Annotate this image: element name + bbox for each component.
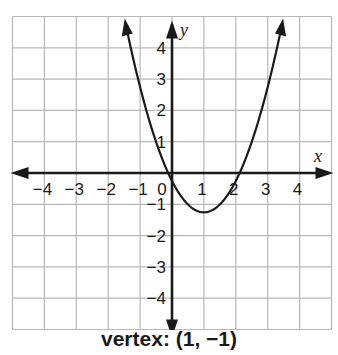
y-tick-label: −3	[147, 258, 166, 277]
y-axis-label: y	[178, 20, 188, 40]
axes	[11, 21, 334, 331]
x-tick-label: −4	[33, 180, 52, 199]
curve-left-arrow-icon	[122, 18, 133, 36]
vertex-caption: vertex: (1, −1)	[0, 327, 338, 351]
y-tick-label: 3	[157, 70, 166, 89]
x-axis-label: x	[313, 146, 322, 166]
y-tick-label: −1	[147, 195, 166, 214]
x-tick-label: 1	[197, 180, 206, 199]
coordinate-plane: xy−4−3−2−1012344321−1−2−3−4	[0, 0, 338, 330]
y-tick-label: 2	[157, 101, 166, 120]
x-axis-left-arrow-icon	[11, 167, 29, 179]
y-axis-up-arrow-icon	[166, 21, 178, 39]
x-tick-label: −1	[128, 180, 147, 199]
curve-right-arrow-icon	[275, 18, 286, 36]
y-tick-label: 4	[157, 39, 166, 58]
y-tick-label: −2	[147, 227, 166, 246]
x-tick-label: −3	[65, 180, 84, 199]
y-tick-label: −4	[147, 289, 166, 308]
x-tick-label: −2	[97, 180, 116, 199]
x-tick-label: 4	[293, 180, 302, 199]
x-tick-label: 3	[261, 180, 270, 199]
x-axis-right-arrow-icon	[316, 167, 334, 179]
